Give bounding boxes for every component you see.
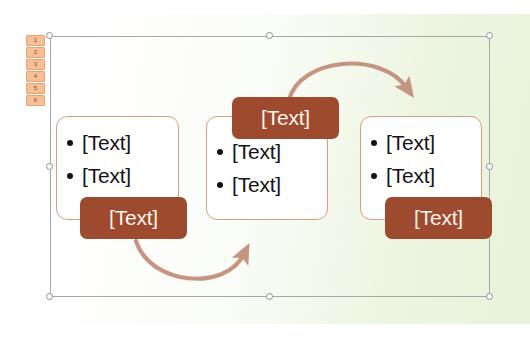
bullet-label: [Text] bbox=[232, 140, 281, 164]
bullet-item[interactable]: [Text] bbox=[371, 159, 475, 192]
bullet-label: [Text] bbox=[386, 164, 435, 188]
handle-top-center[interactable] bbox=[266, 32, 273, 39]
handle-top-right[interactable] bbox=[486, 32, 493, 39]
bullet-item[interactable]: [Text] bbox=[371, 126, 475, 159]
label-box-right[interactable]: [Text] bbox=[385, 197, 492, 239]
handle-bottom-left[interactable] bbox=[46, 293, 53, 300]
handle-bottom-right[interactable] bbox=[486, 293, 493, 300]
label-box-left[interactable]: [Text] bbox=[80, 197, 187, 239]
slide-number-tab[interactable]: 2 bbox=[26, 47, 45, 58]
bullet-dot-icon bbox=[217, 182, 223, 188]
bullet-label: [Text] bbox=[232, 173, 281, 197]
bullet-dot-icon bbox=[217, 149, 223, 155]
slide-thumbnail-numbers[interactable]: 1 2 3 4 5 6 bbox=[26, 35, 48, 107]
slide-number-tab[interactable]: 1 bbox=[26, 35, 45, 46]
handle-middle-left[interactable] bbox=[46, 163, 53, 170]
bullet-dot-icon bbox=[371, 173, 377, 179]
bullet-label: [Text] bbox=[82, 131, 131, 155]
handle-bottom-center[interactable] bbox=[266, 293, 273, 300]
bullet-label: [Text] bbox=[82, 164, 131, 188]
slide-number-tab[interactable]: 5 bbox=[26, 83, 45, 94]
label-text: [Text] bbox=[261, 106, 310, 130]
bullet-item[interactable]: [Text] bbox=[67, 159, 172, 192]
bullet-label: [Text] bbox=[386, 131, 435, 155]
bullet-item[interactable]: [Text] bbox=[67, 126, 172, 159]
slide-number-tab[interactable]: 4 bbox=[26, 71, 45, 82]
handle-top-left[interactable] bbox=[46, 32, 53, 39]
bullet-dot-icon bbox=[67, 140, 73, 146]
label-box-middle[interactable]: [Text] bbox=[232, 97, 339, 139]
slide-number-tab[interactable]: 6 bbox=[26, 95, 45, 106]
slide-number-tab[interactable]: 3 bbox=[26, 59, 45, 70]
bullet-item[interactable]: [Text] bbox=[217, 168, 321, 201]
slide-canvas[interactable]: 1 2 3 4 5 6 [Text] bbox=[0, 0, 530, 337]
bullet-dot-icon bbox=[67, 173, 73, 179]
bullet-item[interactable]: [Text] bbox=[217, 135, 321, 168]
label-text: [Text] bbox=[414, 206, 463, 230]
label-text: [Text] bbox=[109, 206, 158, 230]
handle-middle-right[interactable] bbox=[486, 163, 493, 170]
bullet-dot-icon bbox=[371, 140, 377, 146]
